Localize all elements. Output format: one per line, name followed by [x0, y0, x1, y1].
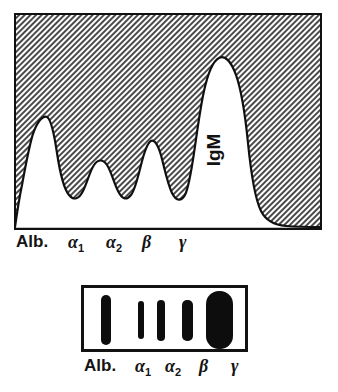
- gel-label-albumin: Alb.: [84, 356, 116, 376]
- igm-peak-annotation: IgM: [183, 140, 245, 160]
- gel-label-beta: β: [199, 356, 208, 377]
- gel-band-container: [84, 288, 245, 349]
- densitometry-scan-chart: [14, 13, 322, 230]
- scan-hatched-fill: [15, 14, 321, 229]
- scan-label-beta: β: [142, 232, 151, 253]
- gel-band-alpha-2: [157, 300, 165, 341]
- gel-axis-label-row: Alb. α1 α2 β γ: [81, 356, 261, 384]
- scan-label-albumin: Alb.: [16, 232, 48, 252]
- scan-axis-label-row: Alb. α1 α2 β γ: [14, 232, 324, 258]
- scan-label-gamma: γ: [179, 232, 187, 253]
- gel-label-gamma: γ: [231, 356, 239, 377]
- densitometry-scan-panel: IgM: [14, 13, 322, 230]
- scan-label-alpha-1: α1: [68, 232, 84, 258]
- gel-strip-panel: [81, 285, 248, 352]
- gel-label-alpha-1: α1: [135, 356, 151, 382]
- gel-band-beta: [182, 300, 193, 341]
- gel-band-gamma: [206, 291, 233, 349]
- gel-band-albumin: [101, 295, 111, 345]
- gel-band-alpha-1: [138, 301, 144, 339]
- gel-label-alpha-2: α2: [165, 356, 181, 382]
- electrophoresis-figure: IgM Alb. α1 α2 β γ Alb. α1 α2 β γ: [0, 0, 338, 392]
- scan-label-alpha-2: α2: [106, 232, 122, 258]
